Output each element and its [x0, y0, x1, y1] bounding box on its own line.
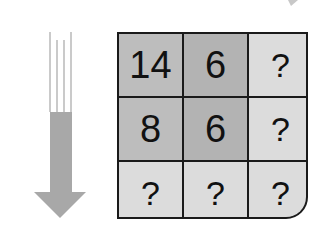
grid-cell-r2c3: ? — [249, 98, 308, 160]
grid-cell-r1c2: 6 — [184, 34, 247, 96]
grid-cell-r2c1: 8 — [119, 98, 182, 160]
grid-cell-r1c3: ? — [249, 34, 308, 96]
number-grid: 14 6 ? 8 6 ? ? ? ? — [117, 32, 308, 219]
grid-cell-r2c2: 6 — [184, 98, 247, 160]
grid-cell-r1c1: 14 — [119, 34, 182, 96]
grid-cell-r3c3: ? — [249, 162, 308, 219]
grid-cell-r3c2: ? — [184, 162, 247, 219]
down-arrow-icon — [34, 30, 86, 218]
corner-mark-icon — [288, 0, 298, 6]
grid-cell-r3c1: ? — [119, 162, 182, 219]
puzzle-stage: 14 6 ? 8 6 ? ? ? ? — [0, 0, 326, 233]
